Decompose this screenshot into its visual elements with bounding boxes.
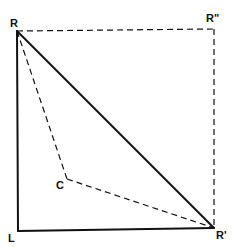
- dashed-line-c-to-r-prime: [67, 179, 214, 228]
- solid-line-r-to-r-prime: [17, 31, 214, 228]
- solid-line-l-to-r-prime: [18, 228, 214, 231]
- label-r-double-prime: R": [206, 13, 219, 24]
- dashed-line-r-to-c: [17, 31, 67, 179]
- solid-line-r-to-l: [17, 31, 18, 231]
- label-r-prime: R': [216, 230, 227, 241]
- label-l: L: [8, 233, 15, 244]
- label-r: R: [10, 18, 18, 29]
- label-c: C: [56, 180, 64, 191]
- dashed-line-r-to-r-double-prime: [17, 29, 214, 31]
- diagram-canvas: [0, 0, 238, 247]
